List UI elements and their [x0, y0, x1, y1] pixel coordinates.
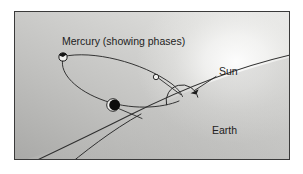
label-sun: Sun — [219, 65, 238, 77]
label-earth: Earth — [212, 124, 237, 136]
mercury-position-middle — [153, 74, 158, 79]
mercury-position-lower — [107, 99, 120, 112]
label-mercury: Mercury (showing phases) — [62, 35, 185, 47]
mercury-position-upper — [59, 53, 67, 61]
mercury-phases-diagram: Mercury (showing phases) Sun Earth — [0, 0, 303, 174]
figure-container: Mercury (showing phases) Sun Earth — [0, 0, 303, 174]
diagram-panel: Mercury (showing phases) Sun Earth — [12, 0, 303, 174]
